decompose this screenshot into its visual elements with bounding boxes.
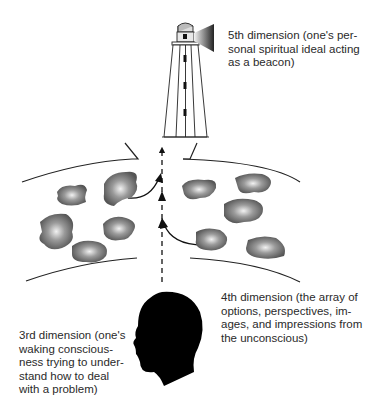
head-silhouette-icon [133,292,202,386]
lighthouse-icon [162,23,214,137]
impression-blobs-left [39,172,137,263]
impression-blobs-right [182,174,285,259]
label-fourth-dimension: 4th dimension (the array of options, per… [221,291,362,345]
label-third-dimension: 3rd dimension (one's waking conscious- n… [19,329,125,397]
diagram: 5th dimension (one's per- sonal spiritua… [0,0,387,414]
label-fifth-dimension: 5th dimension (one's per- sonal spiritua… [228,29,360,70]
